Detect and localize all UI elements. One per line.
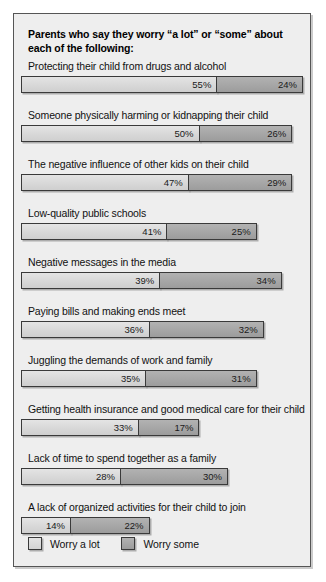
legend-label: Worry some bbox=[143, 538, 198, 550]
bar-track: 36%32% bbox=[21, 321, 264, 338]
bar-segment-value: 36% bbox=[125, 324, 149, 335]
bar-segment-value: 35% bbox=[121, 373, 145, 384]
bar-row: Someone physically harming or kidnapping… bbox=[14, 109, 310, 158]
bar-segment-value: 55% bbox=[192, 79, 216, 90]
bar-track: 50%26% bbox=[21, 125, 292, 142]
bar-segment-worry-some: 32% bbox=[149, 321, 264, 338]
bar-segment-value: 25% bbox=[232, 226, 256, 237]
bar-segment-worry-a-lot: 33% bbox=[21, 419, 139, 436]
bar-segment-worry-some: 25% bbox=[166, 223, 256, 240]
bar-row: The negative influence of other kids on … bbox=[14, 158, 310, 207]
bar-segment-worry-a-lot: 36% bbox=[21, 321, 150, 338]
chart-panel: Parents who say they worry “a lot” or “s… bbox=[13, 13, 311, 567]
bar-segment-worry-some: 31% bbox=[145, 370, 257, 387]
bar-segment-worry-some: 26% bbox=[199, 125, 293, 142]
bar-row-label: Negative messages in the media bbox=[28, 256, 176, 268]
bar-segment-value: 39% bbox=[135, 275, 159, 286]
bar-segment-value: 28% bbox=[96, 471, 120, 482]
chart-title: Parents who say they worry “a lot” or “s… bbox=[28, 27, 296, 55]
bar-row: Lack of time to spend together as a fami… bbox=[14, 452, 310, 501]
bar-segment-value: 22% bbox=[124, 520, 148, 531]
bar-track: 47%29% bbox=[21, 174, 292, 191]
legend-item: Worry some bbox=[121, 537, 198, 550]
bar-row: Paying bills and making ends meet36%32% bbox=[14, 305, 310, 354]
bar-row-label: Juggling the demands of work and family bbox=[28, 354, 212, 366]
bar-segment-value: 24% bbox=[278, 79, 302, 90]
bar-segment-worry-some: 29% bbox=[188, 174, 293, 191]
bar-track: 41%25% bbox=[21, 223, 257, 240]
bar-segment-worry-some: 17% bbox=[138, 419, 200, 436]
bar-row: Negative messages in the media39%34% bbox=[14, 256, 310, 305]
bar-segment-value: 33% bbox=[114, 422, 138, 433]
bar-segment-value: 41% bbox=[142, 226, 166, 237]
bar-row: Juggling the demands of work and family3… bbox=[14, 354, 310, 403]
legend-label: Worry a lot bbox=[50, 538, 99, 550]
bar-row-label: Low-quality public schools bbox=[28, 207, 146, 219]
bar-rows-container: Protecting their child from drugs and al… bbox=[14, 60, 310, 550]
bar-segment-value: 32% bbox=[239, 324, 263, 335]
bar-segment-worry-a-lot: 14% bbox=[21, 517, 71, 534]
bar-segment-worry-some: 24% bbox=[216, 76, 303, 93]
bar-row: Getting health insurance and good medica… bbox=[14, 403, 310, 452]
bar-row-label: Getting health insurance and good medica… bbox=[28, 403, 305, 415]
bar-segment-worry-a-lot: 47% bbox=[21, 174, 189, 191]
bar-track: 28%30% bbox=[21, 468, 228, 485]
bar-segment-worry-a-lot: 55% bbox=[21, 76, 217, 93]
bar-segment-worry-a-lot: 35% bbox=[21, 370, 146, 387]
bar-row-label: Protecting their child from drugs and al… bbox=[28, 60, 226, 72]
bar-segment-value: 26% bbox=[267, 128, 291, 139]
bar-row-label: Paying bills and making ends meet bbox=[28, 305, 185, 317]
bar-segment-value: 50% bbox=[174, 128, 198, 139]
bar-segment-worry-a-lot: 41% bbox=[21, 223, 167, 240]
bar-segment-value: 31% bbox=[232, 373, 256, 384]
bar-row-label: The negative influence of other kids on … bbox=[28, 158, 249, 170]
chart-legend: Worry a lotWorry some bbox=[28, 537, 199, 550]
bar-segment-worry-a-lot: 39% bbox=[21, 272, 160, 289]
bar-track: 14%22% bbox=[21, 517, 150, 534]
bar-row-label: Someone physically harming or kidnapping… bbox=[28, 109, 268, 121]
bar-segment-value: 30% bbox=[203, 471, 227, 482]
bar-track: 55%24% bbox=[21, 76, 303, 93]
bar-segment-value: 17% bbox=[174, 422, 198, 433]
bar-segment-value: 34% bbox=[257, 275, 281, 286]
bar-row-label: Lack of time to spend together as a fami… bbox=[28, 452, 216, 464]
bar-track: 35%31% bbox=[21, 370, 257, 387]
chart-panel-inner: Parents who say they worry “a lot” or “s… bbox=[14, 14, 310, 566]
bar-segment-value: 29% bbox=[267, 177, 291, 188]
legend-swatch-worry-a-lot-icon bbox=[28, 537, 42, 550]
bar-segment-worry-a-lot: 28% bbox=[21, 468, 121, 485]
bar-track: 39%34% bbox=[21, 272, 282, 289]
bar-segment-worry-some: 34% bbox=[159, 272, 281, 289]
bar-segment-value: 47% bbox=[164, 177, 188, 188]
bar-track: 33%17% bbox=[21, 419, 199, 436]
bar-row: Protecting their child from drugs and al… bbox=[14, 60, 310, 109]
bar-row: Low-quality public schools41%25% bbox=[14, 207, 310, 256]
legend-swatch-worry-some-icon bbox=[121, 537, 135, 550]
legend-item: Worry a lot bbox=[28, 537, 99, 550]
bar-segment-worry-some: 22% bbox=[70, 517, 150, 534]
bar-segment-worry-some: 30% bbox=[120, 468, 228, 485]
bar-row-label: A lack of organized activities for their… bbox=[28, 501, 246, 513]
bar-segment-value: 14% bbox=[46, 520, 70, 531]
bar-segment-worry-a-lot: 50% bbox=[21, 125, 200, 142]
